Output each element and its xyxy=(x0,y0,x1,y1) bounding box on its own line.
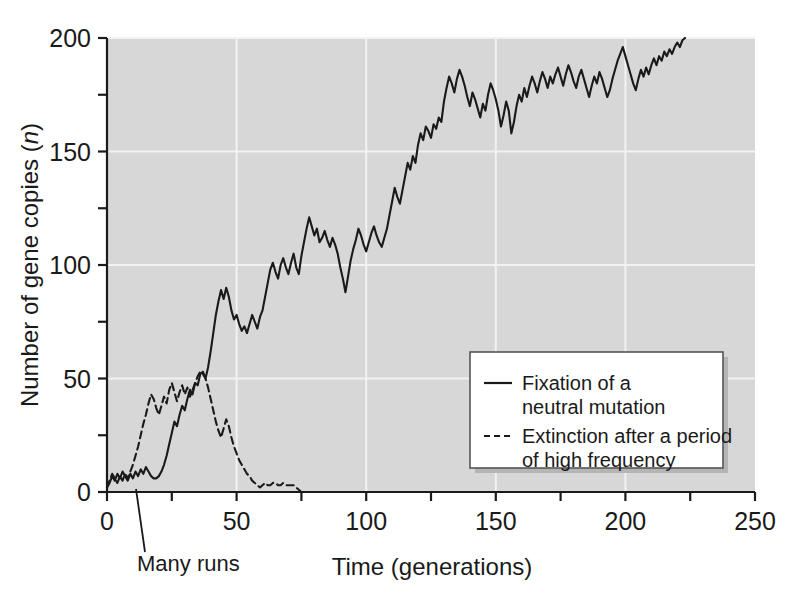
y-tick-label: 200 xyxy=(49,24,91,52)
x-axis-title: Time (generations) xyxy=(332,553,533,580)
y-tick-label: 0 xyxy=(77,478,91,506)
legend-label-solid-line1: Fixation of a xyxy=(522,372,632,394)
x-tick-label: 100 xyxy=(345,507,387,535)
many-runs-leader-line xyxy=(136,489,145,552)
y-axis-ticks xyxy=(98,38,107,492)
y-axis-title-italic: n xyxy=(16,131,43,144)
x-tick-label: 0 xyxy=(100,507,114,535)
y-tick-label: 100 xyxy=(49,251,91,279)
legend-label-dashed-line1: Extinction after a period xyxy=(522,425,732,447)
x-tick-label: 200 xyxy=(605,507,647,535)
y-tick-label: 150 xyxy=(49,138,91,166)
y-tick-label: 50 xyxy=(63,365,91,393)
x-tick-label: 250 xyxy=(734,507,776,535)
legend-label-solid-line2: neutral mutation xyxy=(522,396,665,418)
x-axis-ticks xyxy=(107,492,755,501)
x-tick-label: 50 xyxy=(223,507,251,535)
legend-label-dashed-line2: of high frequency xyxy=(522,449,675,471)
y-axis-tick-labels: 050100150200 xyxy=(49,24,91,506)
chart-legend: Fixation of a neutral mutation Extinctio… xyxy=(470,352,732,473)
x-axis-tick-labels: 050100150200250 xyxy=(100,507,776,535)
y-axis-title: Number of gene copies (n) xyxy=(16,123,43,407)
line-chart: 050100150200 050100150200250 Number of g… xyxy=(0,0,797,606)
x-tick-label: 150 xyxy=(475,507,517,535)
y-axis-title-prefix: Number of gene copies ( xyxy=(16,144,43,407)
figure-container: 050100150200 050100150200250 Number of g… xyxy=(0,0,797,606)
y-axis-title-suffix: ) xyxy=(16,123,43,131)
many-runs-label: Many runs xyxy=(137,551,240,576)
